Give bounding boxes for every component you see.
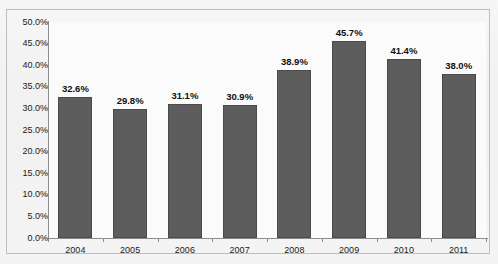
bar <box>113 109 147 238</box>
x-axis-tick-mark <box>431 238 432 242</box>
y-axis-tick-label: 15.0% <box>4 169 48 178</box>
y-axis-tick-labels: 50.0%45.0%40.0%35.0%30.0%25.0%20.0%15.0%… <box>0 0 48 264</box>
bar-value-label: 45.7% <box>322 28 377 38</box>
y-axis-tick-label: 50.0% <box>4 18 48 27</box>
x-axis-tick-mark <box>103 238 104 242</box>
y-axis-tick-mark <box>44 65 48 66</box>
bar <box>223 105 257 238</box>
x-axis-category-label: 2009 <box>322 245 377 255</box>
y-axis-tick-label: 0.0% <box>4 234 48 243</box>
y-axis-tick-label: 45.0% <box>4 39 48 48</box>
y-axis-tick-mark <box>44 22 48 23</box>
x-axis-tick-mark <box>377 238 378 242</box>
y-axis-tick-mark <box>44 216 48 217</box>
bar-value-label: 30.9% <box>212 92 267 102</box>
y-axis-tick-mark <box>44 152 48 153</box>
y-axis-tick-label: 35.0% <box>4 82 48 91</box>
y-axis-tick-mark <box>44 44 48 45</box>
bar-value-label: 38.0% <box>431 61 486 71</box>
x-axis-tick-mark <box>158 238 159 242</box>
x-axis-category-label: 2011 <box>431 245 486 255</box>
y-axis-tick-label: 30.0% <box>4 104 48 113</box>
bar-value-label: 38.9% <box>267 57 322 67</box>
bar-value-label: 29.8% <box>103 96 158 106</box>
y-axis-tick-label: 40.0% <box>4 61 48 70</box>
y-axis-tick-mark <box>44 108 48 109</box>
bar-value-label: 32.6% <box>48 84 103 94</box>
y-axis-tick-label: 20.0% <box>4 147 48 156</box>
y-axis-tick-mark <box>44 130 48 131</box>
bar-value-label: 41.4% <box>377 46 432 56</box>
bar-value-label: 31.1% <box>158 91 213 101</box>
bar <box>332 41 366 238</box>
y-axis-tick-label: 25.0% <box>4 126 48 135</box>
y-axis-tick-mark <box>44 173 48 174</box>
y-axis-line <box>48 21 49 239</box>
x-axis-category-label: 2010 <box>377 245 432 255</box>
x-axis-category-label: 2004 <box>48 245 103 255</box>
bar <box>387 59 421 238</box>
y-axis-tick-label: 5.0% <box>4 212 48 221</box>
x-axis-tick-mark <box>322 238 323 242</box>
x-axis-category-label: 2006 <box>158 245 213 255</box>
x-axis-tick-mark <box>212 238 213 242</box>
bar <box>442 74 476 238</box>
x-axis-category-label: 2005 <box>103 245 158 255</box>
x-axis-category-label: 2007 <box>212 245 267 255</box>
x-axis-line <box>48 238 488 239</box>
bar <box>277 70 311 238</box>
y-axis-tick-label: 10.0% <box>4 190 48 199</box>
x-axis-tick-mark <box>486 238 487 242</box>
x-axis-tick-mark <box>267 238 268 242</box>
x-axis-tick-mark <box>48 238 49 242</box>
bar-chart: 50.0%45.0%40.0%35.0%30.0%25.0%20.0%15.0%… <box>0 0 498 264</box>
bar <box>168 104 202 238</box>
y-axis-tick-mark <box>44 195 48 196</box>
bar <box>58 97 92 238</box>
x-axis-category-label: 2008 <box>267 245 322 255</box>
